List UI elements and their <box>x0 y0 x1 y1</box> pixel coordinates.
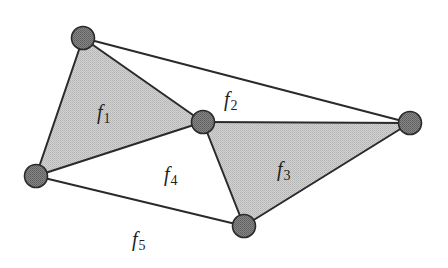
vertex-v4 <box>25 165 48 188</box>
edge-v2-v3 <box>203 122 410 123</box>
edge-v4-v5 <box>36 176 244 226</box>
face-f3-shading <box>203 122 410 226</box>
vertex-v5 <box>233 215 256 238</box>
vertex-v3 <box>399 112 422 135</box>
face-label-f5: f5 <box>132 228 146 253</box>
face-label-f2: f2 <box>224 88 238 113</box>
vertex-v1 <box>72 27 95 50</box>
vertex-v2 <box>192 111 215 134</box>
face-label-f4: f4 <box>164 163 178 188</box>
face-f1-shading <box>36 38 203 176</box>
planar-graph-diagram: f1 f2 f3 f4 f5 <box>0 0 448 268</box>
